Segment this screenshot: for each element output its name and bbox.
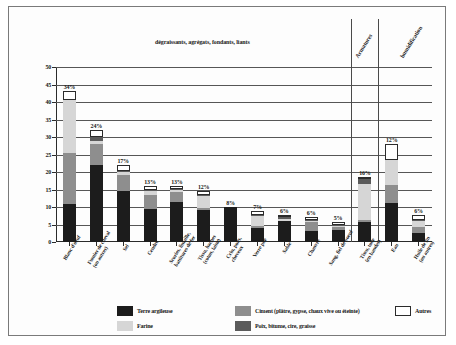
bar-slot: 6% xyxy=(405,67,432,242)
bar-value-label: 34% xyxy=(64,84,75,90)
legend-item[interactable]: Poix, bitume, cire, graisse xyxy=(235,318,395,333)
bar-value-label: 24% xyxy=(91,123,102,129)
bar-slot: 12% xyxy=(190,67,217,242)
bar-slot: 7% xyxy=(244,67,271,242)
legend-label: Autres xyxy=(415,308,431,314)
y-axis-tick-label: 45 xyxy=(45,82,51,88)
bar-value-label: 17% xyxy=(117,158,128,164)
bar-segment xyxy=(63,100,76,153)
bar-segment xyxy=(170,202,183,242)
bar-value-label: 6% xyxy=(280,208,289,214)
bar-segment xyxy=(197,196,210,208)
x-axis-label-text: Eau xyxy=(389,242,399,253)
bar-slot: 13% xyxy=(163,67,190,242)
bar-segment xyxy=(63,91,76,100)
y-axis-tick-mark xyxy=(52,242,56,243)
bar-series-group: 34%24%17%13%13%12%8%7%6%6%5%16%12%6% xyxy=(56,67,432,242)
bar-slot: 34% xyxy=(56,67,83,242)
x-axis-labels: Blanc d'oeufFumier de cheval(ou autres)S… xyxy=(56,244,432,302)
bar-slot: 13% xyxy=(137,67,164,242)
y-axis-tick-label: 40 xyxy=(45,99,51,105)
stacked-bar[interactable]: 13% xyxy=(144,186,157,242)
legend-label: Terre argileuse xyxy=(137,308,173,314)
legend-swatch xyxy=(117,321,133,331)
x-axis-label: Sable xyxy=(271,244,298,302)
x-axis-label: Sang, fiel de boeuf xyxy=(325,244,352,302)
y-axis-tick-label: 25 xyxy=(45,152,51,158)
bar-segment xyxy=(90,165,103,242)
bar-slot: 17% xyxy=(110,67,137,242)
bar-value-label: 5% xyxy=(334,215,343,221)
y-axis-tick-label: 20 xyxy=(45,169,51,175)
stacked-bar[interactable]: 6% xyxy=(278,215,291,242)
stacked-bar[interactable]: 34% xyxy=(63,91,76,242)
bar-slot: 5% xyxy=(325,67,352,242)
stacked-bar[interactable]: 16% xyxy=(358,177,371,242)
bar-segment xyxy=(63,153,76,204)
x-axis-label: Huile de lin(ou autres) xyxy=(405,244,432,302)
bar-segment xyxy=(117,175,130,190)
legend-item[interactable]: Ciment (plâtre, gypse, chaux vive ou éte… xyxy=(235,303,395,318)
bar-slot: 8% xyxy=(217,67,244,242)
bar-segment xyxy=(385,203,398,242)
y-axis-tick-label: 30 xyxy=(45,134,51,140)
bar-value-label: 12% xyxy=(198,184,209,190)
y-axis-tick-label: 5 xyxy=(48,222,51,228)
y-axis-tick-label: 15 xyxy=(45,187,51,193)
group-separator xyxy=(378,19,379,242)
bar-value-label: 16% xyxy=(359,170,370,176)
group-header-main: dégraissants, agrégats, fondants, liants xyxy=(155,39,250,45)
bar-segment xyxy=(358,184,371,220)
legend-swatch xyxy=(117,306,133,316)
legend-item[interactable]: Terre argileuse xyxy=(117,303,235,318)
y-axis-tick-label: 10 xyxy=(45,204,51,210)
x-axis-label: Blanc d'oeuf xyxy=(56,244,83,302)
bar-segment xyxy=(224,207,237,242)
x-axis-label: Verre pilé xyxy=(244,244,271,302)
x-axis-label: Crin, poils,cheveux xyxy=(217,244,244,302)
bar-slot: 6% xyxy=(298,67,325,242)
bar-segment xyxy=(278,221,291,242)
group-header-armatures: Armatures xyxy=(354,33,373,59)
bar-slot: 12% xyxy=(378,67,405,242)
x-axis-label: Sel xyxy=(110,244,137,302)
x-axis-label: Scories, limaille,battitures de fer xyxy=(163,244,190,302)
stacked-bar[interactable]: 13% xyxy=(170,186,183,242)
stacked-bar[interactable]: 17% xyxy=(117,165,130,242)
bar-value-label: 7% xyxy=(253,204,262,210)
x-axis-label: Fumier de cheval(ou autres) xyxy=(83,244,110,302)
y-axis-tick-label: 50 xyxy=(45,64,51,70)
bar-segment xyxy=(117,165,130,172)
x-axis-label: Chanvre xyxy=(298,244,325,302)
bar-value-label: 6% xyxy=(414,208,423,214)
bar-segment xyxy=(385,144,398,160)
legend-label: Ciment (plâtre, gypse, chaux vive ou éte… xyxy=(255,308,360,314)
chart-frame: dégraissants, agrégats, fondants, liants… xyxy=(8,6,446,336)
bar-slot: 6% xyxy=(271,67,298,242)
x-axis-label: Tissu, toile(en bandes) xyxy=(351,244,378,302)
y-axis-tick-label: 0 xyxy=(48,239,51,245)
legend-item[interactable]: Farine xyxy=(117,318,235,333)
y-axis-tick-label: 35 xyxy=(45,117,51,123)
stacked-bar[interactable]: 12% xyxy=(197,191,210,242)
legend-label: Farine xyxy=(137,323,153,329)
stacked-bar[interactable]: 24% xyxy=(90,130,103,242)
bar-segment xyxy=(144,195,157,209)
stacked-bar[interactable]: 8% xyxy=(224,207,237,242)
bar-segment xyxy=(144,209,157,242)
legend-swatch xyxy=(395,306,411,316)
bar-segment xyxy=(385,185,398,203)
legend-label: Poix, bitume, cire, graisse xyxy=(255,323,315,329)
legend-item[interactable]: Autres xyxy=(395,303,431,318)
stacked-bar[interactable]: 12% xyxy=(385,144,398,242)
bar-segment xyxy=(251,216,264,226)
group-separator xyxy=(351,19,352,242)
group-header-humidification: humidification xyxy=(399,25,423,59)
legend-swatch xyxy=(235,306,251,316)
bar-slot: 16% xyxy=(351,67,378,242)
x-axis-label-text: Sel xyxy=(121,243,130,252)
bar-value-label: 8% xyxy=(226,200,235,206)
legend-swatch xyxy=(235,321,251,331)
bar-value-label: 13% xyxy=(171,179,182,185)
bar-slot: 24% xyxy=(83,67,110,242)
